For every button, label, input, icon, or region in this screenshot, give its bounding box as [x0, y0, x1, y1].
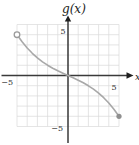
x-axis-arrowhead-icon: [127, 72, 134, 78]
function-graph-figure: g(x) x −5 5 5 −5: [0, 0, 139, 145]
closed-endpoint-marker: [116, 114, 121, 119]
y-tick-label-neg5: −5: [51, 124, 63, 133]
open-endpoint-marker: [14, 32, 20, 38]
y-axis-arrowhead-icon: [65, 16, 71, 22]
x-tick-label-neg5: −5: [1, 78, 13, 87]
x-axis-label: x: [135, 71, 139, 82]
x-tick-label-5: 5: [111, 83, 116, 92]
graph-canvas: g(x) x −5 5 5 −5: [0, 0, 139, 145]
graph-title: g(x): [62, 2, 86, 16]
y-tick-label-5: 5: [60, 27, 65, 36]
